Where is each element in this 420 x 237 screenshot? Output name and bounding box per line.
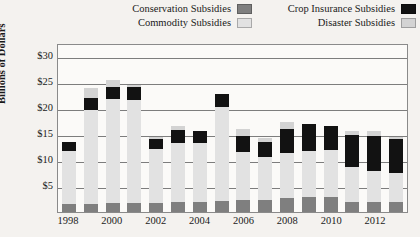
bar-segment (345, 167, 359, 201)
bar-stack[interactable] (193, 131, 207, 212)
bar-stack[interactable] (367, 131, 381, 212)
bar-stack[interactable] (280, 122, 294, 212)
bar-segment (127, 87, 141, 100)
bar-segment (193, 202, 207, 212)
bar-stack[interactable] (149, 137, 163, 212)
legend-item-label: Conservation Subsidies (132, 2, 231, 16)
legend-item-label: Crop Insurance Subsidies (288, 2, 395, 16)
bar-segment (345, 202, 359, 212)
bar-segment (324, 197, 338, 212)
x-tick-label: 1998 (57, 215, 78, 226)
legend-column-left: Conservation SubsidiesCommodity Subsidie… (0, 2, 252, 30)
bar-segment (149, 203, 163, 212)
x-tick-label: 2002 (145, 215, 166, 226)
y-tick-label: $15 (1, 128, 53, 139)
bar-segment (149, 149, 163, 203)
bar-segment (389, 139, 403, 173)
legend-column-right: Crop Insurance SubsidiesDisaster Subsidi… (256, 2, 416, 30)
bar-stack[interactable] (127, 85, 141, 212)
bar-segment (236, 136, 250, 152)
bar-stack[interactable] (302, 124, 316, 212)
bar-stack[interactable] (236, 129, 250, 212)
bar-segment (84, 110, 98, 205)
plot-area (57, 44, 408, 213)
bar-segment (302, 151, 316, 198)
legend-swatch (401, 4, 416, 15)
bar-stack[interactable] (345, 131, 359, 212)
bar-segment (84, 98, 98, 109)
bar-segment (389, 173, 403, 202)
bar-stack[interactable] (84, 88, 98, 212)
bar-segment (280, 122, 294, 129)
legend-swatch (237, 4, 252, 15)
bar-segment (236, 200, 250, 212)
bar-segment (62, 142, 76, 150)
y-tick-label: $30 (1, 50, 53, 61)
bar-stack[interactable] (106, 80, 120, 212)
bar-segment (258, 200, 272, 212)
bar-segment (106, 99, 120, 203)
y-tick-label: $10 (1, 154, 53, 165)
bar-segment (236, 152, 250, 200)
y-axis-ticks: $5$10$15$20$25$30 (0, 44, 53, 213)
bar-segment (236, 129, 250, 136)
legend-swatch (401, 18, 416, 29)
bar-segment (280, 129, 294, 153)
legend-item[interactable]: Commodity Subsidies (0, 16, 252, 30)
bar-segment (324, 150, 338, 197)
bar-segment (193, 143, 207, 201)
bar-segment (171, 143, 185, 202)
legend-item-label: Disaster Subsidies (318, 16, 395, 30)
bar-segment (62, 151, 76, 204)
legend-item[interactable]: Disaster Subsidies (256, 16, 416, 30)
bar-segment (302, 197, 316, 212)
bar-segment (215, 107, 229, 201)
bar-segment (324, 126, 338, 150)
bar-segment (193, 131, 207, 143)
bar-segment (62, 204, 76, 212)
bar-segment (302, 124, 316, 151)
bar-stack[interactable] (324, 126, 338, 212)
bar-segment (280, 153, 294, 199)
bar-stack[interactable] (389, 137, 403, 212)
legend-item[interactable]: Crop Insurance Subsidies (256, 2, 416, 16)
bar-segment (367, 171, 381, 202)
bar-segment (106, 203, 120, 212)
bar-segment (215, 201, 229, 212)
bar-segment (215, 94, 229, 107)
bar-segment (389, 202, 403, 212)
bar-segment (171, 130, 185, 142)
bar-stack[interactable] (62, 142, 76, 212)
legend-item[interactable]: Conservation Subsidies (0, 2, 252, 16)
bar-stack[interactable] (258, 138, 272, 212)
bar-stack[interactable] (171, 126, 185, 212)
y-tick-label: $25 (1, 76, 53, 87)
chart-figure: Conservation SubsidiesCommodity Subsidie… (0, 0, 420, 237)
x-tick-label: 2008 (277, 215, 298, 226)
bar-segment (258, 142, 272, 158)
bar-segment (106, 87, 120, 99)
bar-segment (127, 203, 141, 212)
x-tick-label: 2004 (189, 215, 210, 226)
bar-segment (171, 202, 185, 212)
bar-segment (127, 100, 141, 203)
x-tick-label: 2010 (321, 215, 342, 226)
legend-swatch (237, 18, 252, 29)
bar-stack[interactable] (215, 94, 229, 212)
x-axis-ticks: 19982000200220042006200820102012 (57, 215, 408, 233)
bar-segment (367, 202, 381, 212)
bar-segment (149, 139, 163, 148)
bar-segment (280, 198, 294, 212)
bar-segment (84, 88, 98, 98)
y-tick-label: $20 (1, 102, 53, 113)
bar-segment (367, 136, 381, 172)
chart-legend: Conservation SubsidiesCommodity Subsidie… (0, 2, 420, 32)
x-tick-label: 2006 (233, 215, 254, 226)
legend-item-label: Commodity Subsidies (138, 16, 231, 30)
x-tick-label: 2012 (365, 215, 386, 226)
bar-group (58, 45, 407, 212)
y-tick-label: $5 (1, 180, 53, 191)
x-tick-label: 2000 (101, 215, 122, 226)
bar-segment (345, 135, 359, 167)
bar-segment (84, 204, 98, 212)
